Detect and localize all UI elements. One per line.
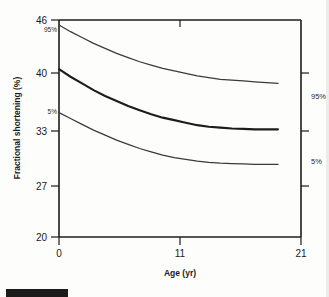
right-label-5pct: 5% [311, 157, 322, 166]
curve-start-label-95pct: 95% [44, 26, 57, 33]
right-label-95pct: 95% [311, 92, 326, 101]
ytick-label-20: 20 [36, 232, 48, 243]
xtick-label-0: 0 [56, 248, 62, 259]
curve-start-label-5pct: 5% [48, 108, 58, 115]
ytick-label-27: 27 [36, 181, 48, 192]
chart-background [0, 0, 329, 297]
ytick-label-33: 33 [36, 126, 48, 137]
ytick-label-46: 46 [36, 15, 48, 26]
figure-container: 46 40 33 27 20 0 11 21 95% 5% 95% 5% [0, 0, 329, 297]
x-axis-title: Age (yr) [164, 268, 196, 278]
xtick-label-11: 11 [175, 248, 186, 259]
y-axis-title: Fractional shortening (%) [12, 77, 22, 180]
caption-bar-redacted [6, 289, 68, 297]
ytick-label-40: 40 [36, 68, 48, 79]
fractional-shortening-vs-age-chart: 46 40 33 27 20 0 11 21 95% 5% 95% 5% [0, 0, 329, 297]
xtick-label-21: 21 [295, 248, 307, 259]
